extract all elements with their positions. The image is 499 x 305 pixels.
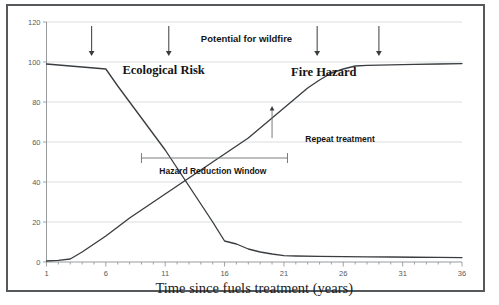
x-axis-title: Time since fuels treatment (years) [155, 280, 353, 297]
series-line-0 [47, 64, 463, 258]
treatment-arrow-head-2 [314, 51, 320, 56]
y-tick-label-60: 60 [32, 138, 40, 147]
y-tick-label-0: 0 [36, 258, 40, 267]
annotation-hazard-reduction-window-label: Hazard Reduction Window [159, 166, 267, 176]
annotation-potential-for-wildfire: Potential for wildfire [201, 33, 292, 44]
y-tick-label-20: 20 [32, 218, 40, 227]
y-tick-label-40: 40 [32, 178, 40, 187]
x-tick-label-31: 31 [398, 269, 406, 278]
x-tick-label-21: 21 [280, 269, 288, 278]
treatment-arrow-head-0 [89, 51, 95, 56]
line-chart: 02040608010012016111621263136Potential f… [0, 0, 499, 305]
x-tick-label-1: 1 [44, 269, 48, 278]
annotation-fire-hazard-label: Fire Hazard [291, 65, 356, 79]
figure-root: 02040608010012016111621263136Potential f… [0, 0, 499, 305]
x-tick-label-26: 26 [339, 269, 347, 278]
y-tick-label-120: 120 [28, 18, 41, 27]
x-tick-label-11: 11 [161, 269, 169, 278]
x-tick-label-6: 6 [104, 269, 108, 278]
annotation-repeat-treatment-label: Repeat treatment [305, 134, 375, 144]
x-tick-label-16: 16 [220, 269, 228, 278]
treatment-arrow-head-3 [376, 51, 382, 56]
series-line-1 [47, 64, 463, 261]
y-tick-label-80: 80 [32, 98, 40, 107]
repeat-treatment-arrow-head [270, 106, 275, 111]
annotation-ecological-risk-label: Ecological Risk [122, 63, 204, 77]
x-tick-label-36: 36 [458, 269, 466, 278]
treatment-arrow-head-1 [166, 51, 172, 56]
y-tick-label-100: 100 [28, 58, 41, 67]
